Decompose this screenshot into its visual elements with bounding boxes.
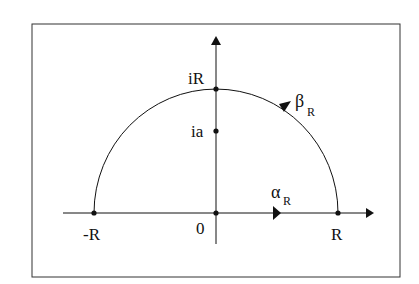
- alpha-direction-arrow-icon: [273, 206, 281, 220]
- contour-diagram: -R 0 R iR ia α R β R: [0, 0, 419, 284]
- label-beta: β: [295, 91, 304, 111]
- label-beta-sub: R: [307, 105, 315, 119]
- label-iR: iR: [188, 69, 205, 88]
- imaginary-axis-arrow-icon: [211, 36, 221, 45]
- label-alpha-sub: R: [283, 194, 291, 208]
- point-ia: [213, 128, 218, 133]
- label-alpha: α: [271, 182, 281, 202]
- point-iR: [213, 86, 218, 91]
- label-origin: 0: [196, 219, 205, 238]
- label-neg-R: -R: [83, 225, 101, 244]
- point-origin: [213, 210, 218, 215]
- point-neg-R: [91, 210, 96, 215]
- point-R: [335, 210, 340, 215]
- label-R: R: [331, 225, 343, 244]
- beta-direction-arrow-icon: [279, 101, 291, 112]
- real-axis-arrow-icon: [366, 208, 374, 218]
- label-ia: ia: [191, 122, 204, 141]
